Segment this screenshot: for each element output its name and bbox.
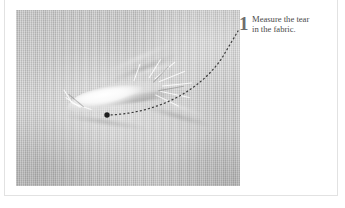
callout-text: Measure the tear in the fabric.	[252, 13, 309, 35]
callout-1: 1 Measure the tear in the fabric.	[239, 13, 331, 35]
callout-text-line-2: in the fabric.	[252, 24, 309, 34]
fabric-tear	[58, 66, 194, 122]
fabric-photo	[16, 10, 240, 186]
callout-number: 1	[239, 14, 248, 33]
callout-text-line-1: Measure the tear	[252, 14, 309, 24]
